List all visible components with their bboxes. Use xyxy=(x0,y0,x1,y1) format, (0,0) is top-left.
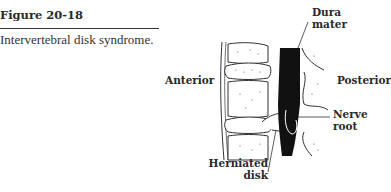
label-dura-mater-line1: Dura xyxy=(312,6,347,18)
label-herniated-disk-line1: Herniated xyxy=(208,157,268,169)
label-dura-mater: Dura mater xyxy=(312,6,347,30)
label-posterior: Posterior xyxy=(337,74,391,86)
label-anterior: Anterior xyxy=(165,74,214,86)
label-nerve-root-line1: Nerve xyxy=(333,108,368,120)
label-herniated-disk: Herniated disk xyxy=(208,157,268,181)
label-herniated-disk-line2: disk xyxy=(208,169,268,181)
label-nerve-root-line2: root xyxy=(333,120,368,132)
label-nerve-root: Nerve root xyxy=(333,108,368,132)
label-dura-mater-line2: mater xyxy=(312,18,347,30)
